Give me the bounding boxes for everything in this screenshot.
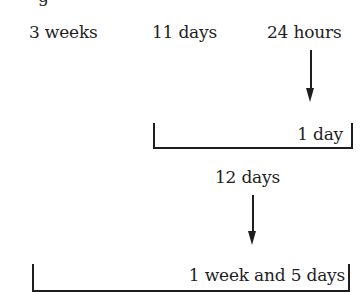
bracket-1-label: 1 day: [297, 124, 343, 144]
clipped-text-fragment: g: [38, 0, 49, 6]
bracket-2-label: 1 week and 5 days: [189, 265, 345, 285]
value-24-hours: 24 hours: [267, 22, 341, 42]
value-11-days: 11 days: [152, 22, 217, 42]
value-12-days: 12 days: [215, 167, 280, 187]
value-3-weeks: 3 weeks: [29, 22, 98, 42]
